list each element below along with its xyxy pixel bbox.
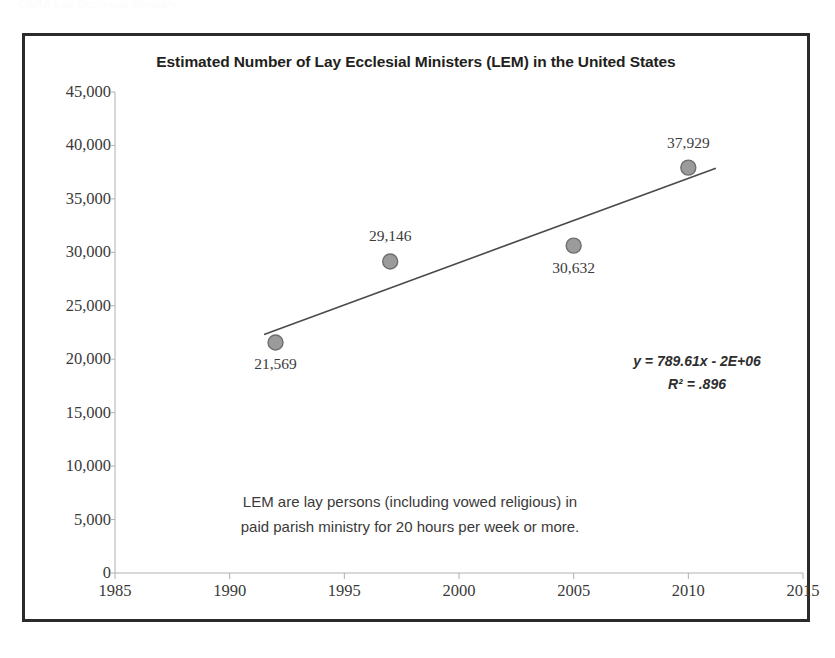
data-point-label: 30,632 — [552, 259, 595, 277]
y-axis-tick-label: 5,000 — [31, 510, 111, 530]
definition-line-1: LEM are lay persons (including vowed rel… — [175, 489, 645, 514]
y-axis-tick-label: 20,000 — [31, 349, 111, 369]
x-axis-tick-label: 2015 — [763, 581, 835, 601]
x-axis-tick-labels: 1985199019952000200520102015 — [115, 581, 803, 607]
x-axis-tick-label: 2010 — [648, 581, 728, 601]
y-axis-tick-labels: 05,00010,00015,00020,00025,00030,00035,0… — [25, 92, 111, 573]
y-axis-tick-label: 45,000 — [31, 82, 111, 102]
y-axis-tick-label: 35,000 — [31, 189, 111, 209]
page-top-cutoff-text: CARA Lay Ecclesial Ministry — [18, 0, 278, 8]
y-axis-tick-label: 30,000 — [31, 242, 111, 262]
x-axis-tick-label: 2000 — [419, 581, 499, 601]
x-axis-tick-label: 1985 — [75, 581, 155, 601]
definition-line-2: paid parish ministry for 20 hours per we… — [175, 514, 645, 539]
y-axis-tick-label: 40,000 — [31, 135, 111, 155]
data-point-label: 21,569 — [254, 355, 297, 373]
lem-definition-annotation: LEM are lay persons (including vowed rel… — [175, 489, 645, 539]
data-point-label: 37,929 — [667, 134, 710, 152]
y-axis-tick-label: 25,000 — [31, 296, 111, 316]
y-axis-tick-label: 15,000 — [31, 403, 111, 423]
regression-equation-line: y = 789.61x - 2E+06 — [585, 350, 809, 373]
data-point-label: 29,146 — [369, 227, 412, 245]
x-axis-tick-label: 1995 — [304, 581, 384, 601]
regression-equation-annotation: y = 789.61x - 2E+06 R² = .896 — [585, 350, 809, 396]
y-axis-tick-label: 10,000 — [31, 456, 111, 476]
y-axis-tick-label: 0 — [31, 563, 111, 583]
chart-frame: Estimated Number of Lay Ecclesial Minist… — [22, 33, 810, 622]
chart-title: Estimated Number of Lay Ecclesial Minist… — [25, 53, 807, 71]
trendline — [264, 168, 716, 334]
r-squared-line: R² = .896 — [585, 373, 809, 396]
x-axis-tick-label: 2005 — [534, 581, 614, 601]
x-axis-tick-label: 1990 — [190, 581, 270, 601]
